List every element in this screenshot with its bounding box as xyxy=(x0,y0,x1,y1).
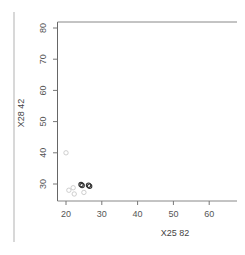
y-tick-label: 80 xyxy=(38,23,48,33)
y-tick-label: 40 xyxy=(38,148,48,158)
scatter-plot: 2030405060 304050607080 X25 82 X28 42 xyxy=(0,0,245,255)
y-tick-label: 30 xyxy=(38,179,48,189)
x-tick-label: 50 xyxy=(168,209,178,219)
y-tick-label: 60 xyxy=(38,85,48,95)
data-point xyxy=(67,188,71,192)
x-axis-ticks: 2030405060 xyxy=(61,201,214,219)
x-tick-label: 60 xyxy=(204,209,214,219)
y-axis-ticks: 304050607080 xyxy=(38,23,58,189)
data-point xyxy=(72,192,76,196)
data-points xyxy=(64,151,92,197)
x-tick-label: 30 xyxy=(97,209,107,219)
data-point xyxy=(82,190,86,194)
data-point xyxy=(71,186,75,190)
y-tick-label: 50 xyxy=(38,117,48,127)
y-axis-title: X28 42 xyxy=(16,99,26,128)
x-axis-title: X25 82 xyxy=(161,228,190,238)
x-tick-label: 20 xyxy=(61,209,71,219)
data-point xyxy=(64,151,68,155)
y-tick-label: 70 xyxy=(38,54,48,64)
x-tick-label: 40 xyxy=(133,209,143,219)
